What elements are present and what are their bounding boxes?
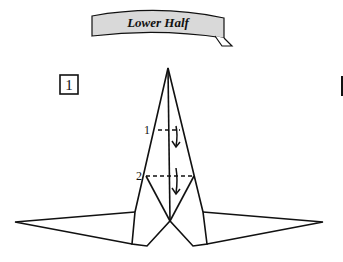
- origami-diagram: Lower Half 1 1 2: [0, 0, 343, 262]
- inner-right-flap: [170, 176, 194, 221]
- fold-label-1: 1: [144, 123, 150, 137]
- step-number: 1: [65, 77, 73, 93]
- step-number-box: 1: [60, 75, 78, 94]
- arrow-down-icon: [176, 126, 177, 146]
- inner-left-flap: [146, 176, 170, 221]
- left-wing: [15, 212, 135, 244]
- fold-arrows: [172, 126, 180, 194]
- banner-title: Lower Half: [126, 15, 190, 30]
- fold-label-2: 2: [136, 169, 142, 183]
- banner: Lower Half: [92, 10, 232, 46]
- center-crease: [168, 68, 170, 221]
- arrow-down-icon: [176, 168, 177, 193]
- right-wing: [203, 212, 323, 244]
